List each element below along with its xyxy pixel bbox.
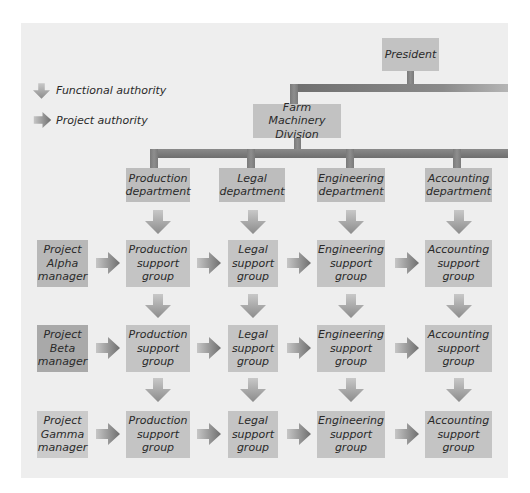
support-group: Engineering support group (317, 325, 385, 372)
support-group: Engineering support group (317, 411, 385, 458)
functional-arrow-icon (145, 210, 171, 234)
drop-engineering (346, 149, 354, 169)
project-arrow-icon (395, 423, 419, 445)
legend-functional-label: Functional authority (56, 84, 166, 97)
project-arrow-icon (287, 423, 311, 445)
support-group: Accounting support group (425, 240, 492, 287)
functional-arrow-icon (446, 294, 472, 318)
president-bar (290, 84, 508, 92)
functional-arrow-icon (338, 378, 364, 402)
project-arrow-icon (287, 337, 311, 359)
president-box: President (382, 38, 439, 71)
project-alpha-manager: Project Alpha manager (37, 240, 88, 287)
project-arrow-icon (197, 337, 221, 359)
dept-accounting: Accounting department (425, 168, 492, 202)
functional-arrow-icon (145, 294, 171, 318)
project-arrow-icon (197, 252, 221, 274)
support-group: Production support group (126, 240, 190, 287)
division-box: Farm Machinery Division (253, 104, 341, 138)
functional-arrow-icon (240, 294, 266, 318)
project-arrow-icon (96, 252, 120, 274)
division-label: Farm Machinery Division (253, 101, 341, 142)
functional-arrow-icon (240, 210, 266, 234)
project-authority-arrow-icon (33, 112, 52, 128)
support-group: Legal support group (228, 325, 278, 372)
project-arrow-icon (96, 423, 120, 445)
group-label: Engineering support group (318, 414, 384, 455)
group-label: Accounting support group (428, 328, 490, 369)
support-group: Production support group (126, 411, 190, 458)
group-label: Engineering support group (318, 328, 384, 369)
project-arrow-icon (287, 252, 311, 274)
project-gamma-manager: Project Gamma manager (37, 411, 88, 458)
functional-arrow-icon (446, 210, 472, 234)
dept-production: Production department (126, 168, 190, 202)
dept-label: Engineering department (318, 172, 384, 199)
support-group: Accounting support group (425, 325, 492, 372)
manager-label: Project Gamma manager (38, 414, 87, 455)
legend-project-label: Project authority (56, 114, 148, 127)
project-arrow-icon (197, 423, 221, 445)
group-label: Production support group (129, 414, 188, 455)
support-group: Engineering support group (317, 240, 385, 287)
functional-authority-arrow-icon (33, 82, 50, 100)
dept-legal: Legal department (219, 168, 285, 202)
project-arrow-icon (395, 337, 419, 359)
group-label: Production support group (129, 328, 188, 369)
group-label: Production support group (129, 243, 188, 284)
drop-legal (247, 149, 255, 169)
manager-label: Project Beta manager (38, 328, 87, 369)
functional-arrow-icon (145, 378, 171, 402)
group-label: Legal support group (232, 243, 274, 284)
functional-arrow-icon (446, 378, 472, 402)
functional-arrow-icon (338, 294, 364, 318)
group-label: Legal support group (232, 414, 274, 455)
project-beta-manager: Project Beta manager (37, 325, 88, 372)
drop-production (150, 149, 158, 169)
dept-label: Production department (125, 172, 190, 199)
dept-engineering: Engineering department (317, 168, 385, 202)
group-label: Engineering support group (318, 243, 384, 284)
drop-accounting (453, 149, 461, 169)
group-label: Legal support group (232, 328, 274, 369)
dept-label: Legal department (219, 172, 284, 199)
support-group: Production support group (126, 325, 190, 372)
dept-label: Accounting department (426, 172, 491, 199)
group-label: Accounting support group (428, 243, 490, 284)
project-arrow-icon (395, 252, 419, 274)
functional-arrow-icon (338, 210, 364, 234)
functional-arrow-icon (240, 378, 266, 402)
support-group: Accounting support group (425, 411, 492, 458)
group-label: Accounting support group (428, 414, 490, 455)
support-group: Legal support group (228, 240, 278, 287)
president-label: President (385, 48, 437, 62)
project-arrow-icon (96, 337, 120, 359)
manager-label: Project Alpha manager (38, 243, 87, 284)
support-group: Legal support group (228, 411, 278, 458)
